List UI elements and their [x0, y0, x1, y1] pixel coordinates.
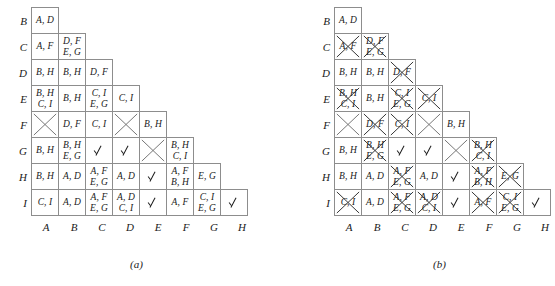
matrix-cell: D, F	[58, 111, 86, 138]
matrix-cell	[523, 189, 551, 216]
cell-text-line: D, F	[366, 36, 384, 47]
matrix-cell: B, H	[334, 59, 362, 86]
cell-text-line: B, H	[36, 171, 54, 182]
matrix-cell: C, I	[31, 189, 59, 216]
row-label: E	[311, 86, 335, 112]
cell-text-line: A, D	[63, 171, 81, 182]
check-icon	[93, 144, 106, 157]
cell-text-line: C, I	[395, 88, 410, 99]
matrix-cell: A, D	[31, 7, 59, 34]
cell-text-line: D, F	[366, 119, 384, 130]
matrix-cell: B, H	[31, 137, 59, 164]
cross-icon	[113, 112, 139, 137]
matrix-cell: B, H	[58, 85, 86, 112]
column-label-spacer	[8, 221, 32, 233]
check-icon	[423, 144, 436, 157]
cell-text-line: A, D	[339, 15, 357, 26]
matrix-cell: A, DC, I	[415, 189, 443, 216]
cell-text-line: A, F	[340, 41, 357, 52]
matrix-cell: A, D	[58, 189, 86, 216]
matrix-cell: A, FE, G	[85, 189, 113, 216]
cell-text-line: E, G	[198, 203, 216, 214]
matrix-cell: B, HC, I	[31, 85, 59, 112]
column-label: H	[531, 221, 555, 233]
matrix-cell: B, HE, G	[58, 137, 86, 164]
row-label: I	[8, 190, 32, 216]
matrix-cell: A, D	[112, 163, 140, 190]
cell-text-line: C, I	[476, 151, 491, 162]
matrix-cell: D, FE, G	[58, 33, 86, 60]
matrix-cell: B, HE, G	[361, 137, 389, 164]
matrix-row: DB, HB, HD, F	[8, 60, 256, 86]
matrix-cell: C, I	[334, 189, 362, 216]
matrix-cell: A, FB, H	[469, 163, 497, 190]
matrix-cell: A, F	[31, 33, 59, 60]
cell-text-line: C, I	[422, 203, 437, 214]
matrix-row: HB, HA, DA, FE, GA, DA, FB, HE, G	[311, 164, 555, 190]
matrix-cell: C, IE, G	[193, 189, 221, 216]
cell-text-line: C, I	[119, 203, 134, 214]
cell-text-line: B, H	[63, 67, 81, 78]
panel-b-caption: (b)	[303, 258, 555, 270]
cell-text-line: E, G	[501, 171, 519, 182]
matrix-cell	[85, 137, 113, 164]
cell-text-line: C, I	[38, 197, 53, 208]
row-label: C	[8, 34, 32, 60]
cell-text-line: A, D	[420, 192, 438, 203]
row-label: F	[8, 112, 32, 138]
cell-text-line: E, G	[198, 171, 216, 182]
cell-text-line: B, H	[171, 177, 189, 188]
matrix-cell	[388, 137, 416, 164]
cell-text-line: C, I	[92, 119, 107, 130]
matrix-cell: A, D	[58, 163, 86, 190]
matrix-cell	[220, 189, 248, 216]
column-label-spacer	[311, 221, 335, 233]
cell-text-line: A, F	[172, 166, 189, 177]
cell-text-line: B, H	[366, 67, 384, 78]
cell-text-line: B, H	[339, 145, 357, 156]
matrix-row: BA, D	[311, 8, 555, 34]
cell-text-line: D, F	[90, 67, 108, 78]
matrix-cell: B, H	[31, 163, 59, 190]
matrix-row: FD, FC, IB, H	[311, 112, 555, 138]
triangular-matrix-b: BA, DCA, FD, FE, GDB, HB, HD, FEB, HC, I…	[311, 8, 555, 233]
matrix-cell: E, G	[496, 163, 524, 190]
matrix-cell: A, D	[415, 163, 443, 190]
column-label: E	[144, 221, 172, 233]
matrix-cell: B, HC, I	[334, 85, 362, 112]
cell-text-line: A, D	[366, 197, 384, 208]
matrix-row: EB, HC, IB, HC, IE, GC, I	[8, 86, 256, 112]
row-label: H	[8, 164, 32, 190]
matrix-cell: B, H	[361, 85, 389, 112]
check-icon	[147, 170, 160, 183]
matrix-row: HB, HA, DA, FE, GA, DA, FB, HE, G	[8, 164, 256, 190]
cell-text-line: A, D	[366, 171, 384, 182]
cell-text-line: B, H	[366, 140, 384, 151]
column-label: H	[228, 221, 256, 233]
cell-text-line: C, I	[38, 99, 53, 110]
cell-text-line: C, I	[422, 93, 437, 104]
cell-text-line: A, F	[475, 166, 492, 177]
cell-text-line: B, H	[474, 140, 492, 151]
column-label: D	[419, 221, 447, 233]
matrix-cell	[334, 111, 362, 138]
matrix-cell: A, D	[361, 189, 389, 216]
column-label: F	[475, 221, 503, 233]
cell-text-line: C, I	[119, 93, 134, 104]
matrix-cell	[31, 111, 59, 138]
cell-text-line: C, I	[92, 88, 107, 99]
cell-text-line: E, G	[63, 151, 81, 162]
cell-text-line: C, I	[341, 99, 356, 110]
matrix-cell: A, F	[469, 189, 497, 216]
cell-text-line: A, D	[63, 197, 81, 208]
matrix-cell: B, H	[334, 163, 362, 190]
cross-icon	[140, 138, 166, 163]
cell-text-line: A, D	[117, 171, 135, 182]
column-label: E	[447, 221, 475, 233]
matrix-cell	[442, 189, 470, 216]
row-label: C	[311, 34, 335, 60]
matrix-row: BA, D	[8, 8, 256, 34]
matrix-cell: A, FE, G	[388, 163, 416, 190]
panel-b: BA, DCA, FD, FE, GDB, HB, HD, FEB, HC, I…	[273, 0, 546, 286]
